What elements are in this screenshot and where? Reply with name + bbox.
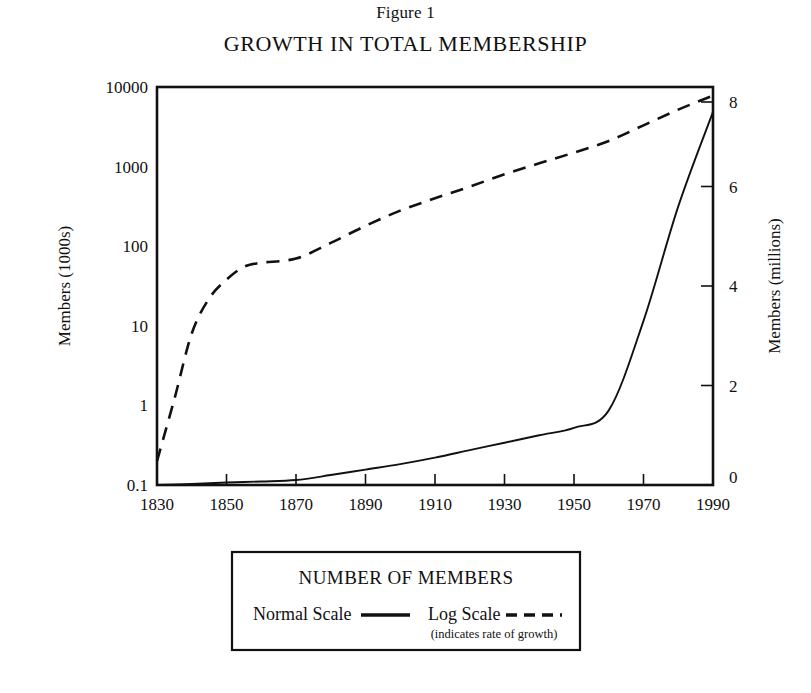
legend-note: (indicates rate of growth) xyxy=(431,627,558,641)
y-axis-left-title: Members (1000s) xyxy=(55,226,74,346)
y-axis-right-ticks xyxy=(701,102,713,386)
y2-tick-label: 0 xyxy=(729,468,738,487)
x-axis-ticks xyxy=(227,474,644,485)
x-tick-label: 1990 xyxy=(696,495,730,514)
x-tick-label: 1950 xyxy=(557,495,591,514)
legend-label-log-scale: Log Scale xyxy=(428,604,500,624)
y2-tick-label: 4 xyxy=(729,277,738,296)
x-tick-label: 1930 xyxy=(488,495,522,514)
series-line-log-scale xyxy=(157,96,713,461)
y2-tick-label: 6 xyxy=(729,178,738,197)
x-tick-label: 1850 xyxy=(210,495,244,514)
y-axis-right-tick-labels: 02468 xyxy=(729,93,738,487)
x-tick-label: 1970 xyxy=(627,495,661,514)
y-tick-label: 1000 xyxy=(114,158,148,177)
membership-growth-chart: 183018501870189019101930195019701990 0.1… xyxy=(0,0,811,693)
y-axis-left-tick-labels: 0.1110100100010000 xyxy=(106,78,149,495)
y2-tick-label: 2 xyxy=(729,377,738,396)
y2-tick-label: 8 xyxy=(729,93,738,112)
legend-label-normal-scale: Normal Scale xyxy=(253,604,351,624)
figure-root: Figure 1 GROWTH IN TOTAL MEMBERSHIP 1830… xyxy=(0,0,811,693)
y-tick-label: 100 xyxy=(123,237,149,256)
x-tick-label: 1890 xyxy=(349,495,383,514)
plot-frame xyxy=(157,87,713,485)
legend-title: NUMBER OF MEMBERS xyxy=(299,567,514,588)
y-tick-label: 10 xyxy=(131,317,148,336)
series-line-normal-scale xyxy=(157,112,713,485)
x-axis-tick-labels: 183018501870189019101930195019701990 xyxy=(140,495,730,514)
x-tick-label: 1910 xyxy=(418,495,452,514)
y-tick-label: 10000 xyxy=(106,78,149,97)
y-axis-right-title: Members (millions) xyxy=(765,218,784,354)
x-tick-label: 1870 xyxy=(279,495,313,514)
x-tick-label: 1830 xyxy=(140,495,174,514)
legend: NUMBER OF MEMBERS Normal Scale Log Scale… xyxy=(232,552,580,650)
y-tick-label: 1 xyxy=(140,396,149,415)
y-tick-label: 0.1 xyxy=(127,476,148,495)
